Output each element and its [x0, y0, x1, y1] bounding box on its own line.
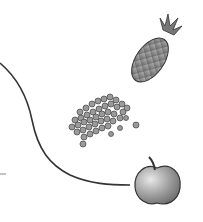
apple-icon	[135, 157, 180, 204]
peas-icon	[69, 94, 139, 147]
illustration-svg	[0, 0, 203, 222]
pineapple-icon	[124, 14, 182, 89]
illustration-canvas	[0, 0, 203, 222]
